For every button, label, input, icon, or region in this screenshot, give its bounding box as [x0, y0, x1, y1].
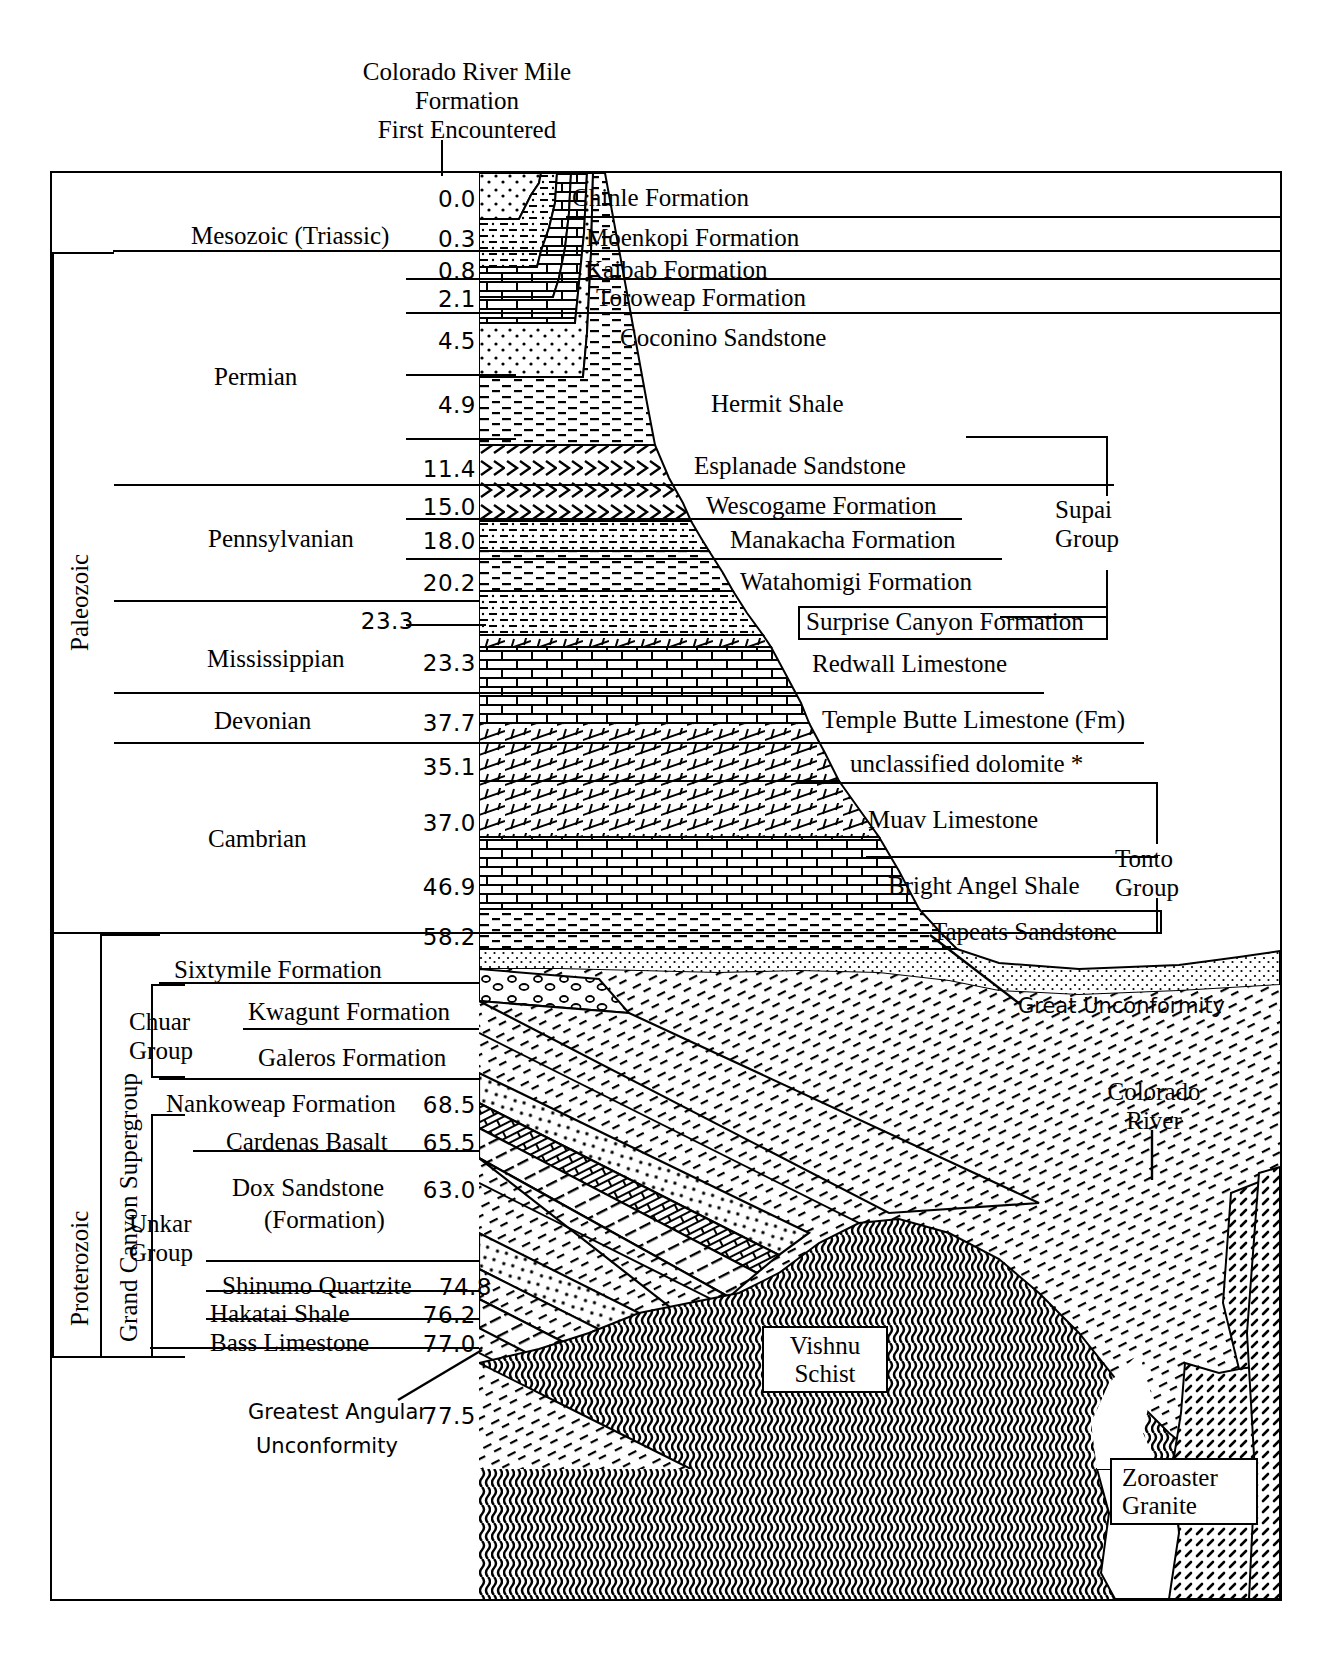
rule-wescogame-manakacha [406, 518, 962, 520]
rule-bass-under [150, 1347, 479, 1349]
rule-pennsylvanian-mississippian [114, 600, 444, 602]
mile-manakacha: 18.0 [410, 528, 476, 554]
mile-surprise-canyon: 23.3 [348, 608, 414, 634]
formation-moenkopi: Moenkopi Formation [586, 224, 799, 252]
period-cambrian: Cambrian [208, 825, 307, 853]
mile-unclassified: 35.1 [410, 754, 476, 780]
title-line-3: First Encountered [282, 116, 652, 145]
label-greatest-angular-unconformity-line1: Greatest Angular [248, 1400, 427, 1424]
formation-coconino: Coconino Sandstone [620, 324, 826, 352]
rule-surprise-canyon-under [798, 638, 1108, 640]
rule-devonian-cambrian [114, 742, 1144, 744]
formation-kwagunt: Kwagunt Formation [248, 998, 450, 1026]
group-tonto: Tonto Group [1115, 845, 1235, 903]
zoroaster-line1: Zoroaster [1122, 1464, 1246, 1492]
mile-watahomigi: 20.2 [410, 570, 476, 596]
group-tonto-line1: Tonto [1115, 845, 1235, 874]
bracket-proterozoic-vertical [52, 934, 54, 1358]
group-chuar: Chuar Group [129, 1008, 249, 1066]
rule-surprise-canyon-lead [406, 624, 486, 626]
group-chuar-line1: Chuar [129, 1008, 249, 1037]
mile-hermit: 4.9 [410, 392, 476, 418]
surprise-box-left [798, 606, 800, 640]
bracket-paleozoic-top [52, 252, 114, 254]
mile-kaibab: 0.8 [410, 258, 476, 284]
bracket-chuar-bottom-arm [151, 1076, 185, 1078]
chart-title: Colorado River Mile Formation First Enco… [282, 58, 652, 144]
formation-chinle: Chinle Formation [572, 184, 749, 212]
label-colorado-river: Colorado River [1094, 1078, 1214, 1136]
bracket-tonto-bottom-vertical [1156, 898, 1158, 934]
formation-surprise-canyon: Surprise Canyon Formation [806, 608, 1084, 636]
mile-temple-butte: 37.7 [410, 710, 476, 736]
group-supai-line2: Group [1055, 525, 1175, 554]
rule-manakacha-watahomigi [406, 558, 1002, 560]
mile-bass: 77.0 [410, 1331, 476, 1357]
bracket-chuar-top-arm [151, 984, 185, 986]
mile-chinle: 0.0 [410, 186, 476, 212]
mile-shinumo: 74.8 [426, 1274, 492, 1300]
mile-cardenas: 65.5 [410, 1130, 476, 1156]
title-line-2: Formation [282, 87, 652, 116]
group-unkar-line2: Group [129, 1239, 249, 1268]
mile-moenkopi: 0.3 [410, 226, 476, 252]
formation-wescogame: Wescogame Formation [706, 492, 937, 520]
formation-unclassified-dolomite: unclassified dolomite * [850, 750, 1083, 778]
group-supai-line1: Supai [1055, 496, 1175, 525]
mile-dox: 63.0 [410, 1177, 476, 1203]
bracket-supai-bottom-arm [1000, 616, 1108, 618]
formation-muav: Muav Limestone [868, 806, 1038, 834]
label-zoroaster-granite: Zoroaster Granite [1110, 1458, 1258, 1525]
bracket-supergroup-vertical [100, 934, 102, 1356]
rule-chinle-moenkopi [566, 216, 1280, 218]
mile-esplanade: 11.4 [410, 456, 476, 482]
supergroup-grand-canyon: Grand Canyon Supergroup [115, 1073, 143, 1342]
bracket-proterozoic-bottom [52, 1356, 102, 1358]
rule-unclassified-muav [798, 782, 1158, 784]
rule-hakatai-under [206, 1318, 479, 1320]
formation-nankoweap: Nankoweap Formation [166, 1090, 396, 1118]
group-unkar: Unkar Group [129, 1210, 249, 1268]
surprise-box-right [1106, 606, 1108, 640]
bracket-tonto-top-vertical [1156, 782, 1158, 844]
rule-moenkopi-kaibab [113, 250, 1280, 252]
mile-toroweap: 2.1 [410, 286, 476, 312]
formation-dox-subtitle: (Formation) [264, 1206, 385, 1234]
group-unkar-line1: Unkar [129, 1210, 249, 1239]
vishnu-line1: Vishnu [774, 1332, 876, 1360]
rule-bright-angel-tapeats [922, 910, 1162, 912]
period-pennsylvanian: Pennsylvanian [208, 525, 354, 553]
colorado-river-line2: River [1094, 1107, 1214, 1136]
mile-hakatai: 76.2 [410, 1302, 476, 1328]
rule-sixtymile-under [159, 982, 479, 984]
label-vishnu-schist: Vishnu Schist [762, 1326, 888, 1393]
rule-esplanade-wescogame [406, 484, 962, 486]
bracket-supai-top-arm [966, 436, 1108, 438]
formation-hermit: Hermit Shale [711, 390, 844, 418]
era-proterozoic: Proterozoic [66, 1211, 94, 1326]
mile-bright-angel: 46.9 [410, 874, 476, 900]
label-great-unconformity: Great Unconformity [1018, 994, 1225, 1018]
formation-sixtymile: Sixtymile Formation [174, 956, 382, 984]
rule-toroweap-coconino [406, 312, 1280, 314]
formation-toroweap: Toroweap Formation [596, 284, 806, 312]
formation-shinumo: Shinumo Quartzite [222, 1272, 412, 1300]
rule-dox-under [206, 1260, 479, 1262]
rule-cardenas-under [193, 1150, 479, 1152]
formation-redwall: Redwall Limestone [812, 650, 1007, 678]
rule-coconino-hermit [406, 374, 516, 376]
mile-muav: 37.0 [410, 810, 476, 836]
formation-manakacha: Manakacha Formation [730, 526, 956, 554]
rule-muav-bright-angel [866, 856, 1158, 858]
mile-nankoweap: 68.5 [410, 1092, 476, 1118]
period-permian: Permian [214, 363, 297, 391]
bracket-unkar-top-arm [151, 1114, 185, 1116]
formation-bass: Bass Limestone [210, 1329, 369, 1357]
group-supai: Supai Group [1055, 496, 1175, 554]
bracket-supergroup-top [100, 934, 160, 936]
tapeats-box-right [1160, 910, 1162, 934]
rule-shinumo-under [206, 1290, 479, 1292]
zoroaster-line2: Granite [1122, 1492, 1246, 1520]
period-devonian: Devonian [214, 707, 311, 735]
surprise-box-top [798, 606, 1108, 608]
